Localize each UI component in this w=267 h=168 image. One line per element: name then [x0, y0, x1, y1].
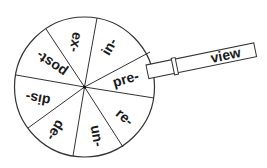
view-tab[interactable]: view	[146, 41, 257, 80]
wheel-center-pin	[83, 86, 86, 89]
view-tab-body	[146, 43, 257, 79]
prefix-wheel-diagram: in- pre- re- un- de- dis- post- ex- view	[0, 0, 267, 168]
view-tab-label: view	[209, 44, 242, 66]
